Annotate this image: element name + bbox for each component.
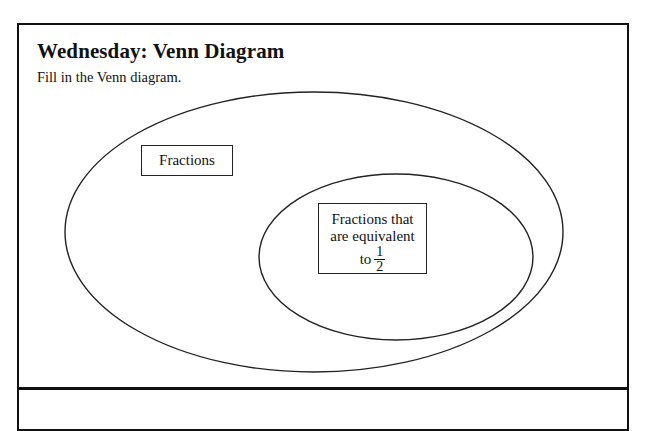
inner-label-line3: to 1 2 [360,245,386,274]
worksheet-instruction: Fill in the Venn diagram. [37,69,181,86]
inner-label-line2: are equivalent [319,228,426,245]
inner-set-label: Fractions that are equivalent to 1 2 [318,203,427,274]
outer-set-label: Fractions [141,145,233,176]
fraction-denominator: 2 [374,260,385,274]
inner-label-prefix: to [360,251,372,268]
fraction-numerator: 1 [374,245,385,260]
one-half-fraction: 1 2 [374,245,385,274]
inner-label-line1: Fractions that [319,211,426,228]
worksheet-title: Wednesday: Venn Diagram [37,39,284,64]
next-section-panel [17,387,629,431]
